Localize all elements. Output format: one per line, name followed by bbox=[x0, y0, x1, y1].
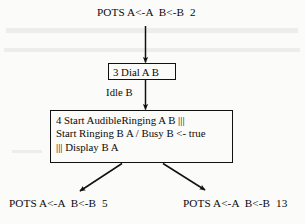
node-4-line-3: ||| Display B A bbox=[56, 141, 119, 154]
leaf-state-label-left: POTS A<-A B<-B 5 bbox=[9, 197, 108, 210]
node-4-start-audible-ringing[interactable]: 4 Start AudibleRinging A B ||| Start Rin… bbox=[50, 110, 233, 163]
state-transition-diagram: POTS A<-A B<-B 2 3 Dial A B Idle B 4 Sta… bbox=[0, 0, 305, 224]
edge-node4-to-leaf-left bbox=[80, 164, 122, 192]
node-3-dial[interactable]: 3 Dial A B bbox=[108, 63, 176, 80]
node-4-line-1: 4 Start AudibleRinging A B ||| bbox=[56, 114, 185, 127]
edge-node4-to-leaf-right bbox=[163, 164, 205, 191]
node-4-line-2: Start Ringing B A / Busy B <- true bbox=[56, 127, 205, 140]
edge-label-idle-b: Idle B bbox=[106, 87, 133, 99]
node-3-label: 3 Dial A B bbox=[113, 66, 159, 79]
leaf-state-label-right: POTS A<-A B<-B 13 bbox=[183, 197, 287, 210]
